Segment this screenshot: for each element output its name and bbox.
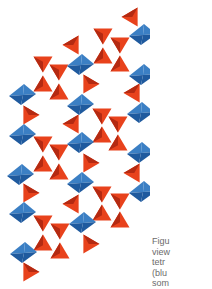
octahedron-facet — [9, 213, 23, 223]
octahedron-facet — [83, 212, 96, 223]
tetrahedron-icon — [124, 84, 140, 103]
octahedron-facet — [67, 143, 81, 153]
octahedron-facet — [141, 142, 150, 153]
tetrahedron-icon — [83, 235, 99, 254]
tetrahedron-icon — [109, 116, 128, 132]
octahedron-facet — [21, 164, 34, 175]
tetrahedron-icon — [51, 242, 70, 258]
tetrahedron-icon — [63, 36, 79, 55]
octahedron-icon — [67, 54, 94, 75]
octahedron-facet — [10, 253, 24, 263]
tetrahedron-icon — [23, 106, 39, 125]
octahedron-facet — [67, 54, 82, 66]
octahedron-facet — [69, 212, 84, 224]
octahedron-facet — [141, 102, 150, 113]
tetrahedron-icon — [34, 215, 53, 231]
octahedron-facet — [9, 202, 24, 214]
octahedron-facet — [7, 164, 22, 176]
tetrahedron-icon — [83, 154, 99, 173]
octahedron-facet — [81, 172, 94, 183]
octahedron-icon — [129, 24, 150, 45]
octahedron-facet — [9, 95, 23, 105]
octahedron-facet — [67, 65, 81, 75]
octahedron-facet — [129, 75, 143, 85]
octahedron-facet — [22, 252, 37, 263]
octahedron-icon — [129, 181, 150, 202]
octahedron-facet — [143, 181, 150, 192]
octahedron-facet — [23, 84, 36, 95]
octahedron-facet — [143, 24, 150, 35]
octahedron-icon — [69, 212, 96, 233]
octahedron-icon — [129, 64, 150, 85]
octahedron-facet — [127, 142, 142, 154]
tetrahedron-icon — [93, 204, 112, 220]
tetrahedron-icon — [83, 75, 99, 94]
octahedron-facet — [21, 94, 36, 105]
octahedron-facet — [79, 64, 94, 75]
tetrahedron-icon — [34, 234, 53, 250]
tetrahedron-icon — [111, 211, 130, 227]
tetrahedron-icon — [93, 186, 112, 202]
tetrahedron-icon — [111, 55, 130, 71]
tetrahedron-icon — [93, 126, 112, 142]
tetrahedron-icon — [34, 75, 53, 91]
octahedron-icon — [67, 172, 94, 193]
caption-line: Figu — [152, 236, 212, 247]
tetrahedron-icon — [94, 28, 113, 44]
octahedron-facet — [129, 64, 144, 76]
tetrahedron-icon — [124, 164, 140, 183]
octahedron-facet — [81, 94, 94, 105]
octahedron-facet — [81, 222, 96, 233]
tetrahedron-icon — [51, 223, 70, 239]
tetrahedron-icon — [23, 184, 39, 203]
octahedron-icon — [9, 84, 36, 105]
octahedron-icon — [127, 102, 150, 123]
octahedron-facet — [67, 132, 82, 144]
octahedron-facet — [67, 172, 82, 184]
octahedron-facet — [143, 64, 150, 75]
octahedron-facet — [7, 175, 21, 185]
octahedron-facet — [21, 134, 36, 145]
tetrahedron-icon — [34, 155, 53, 171]
tetrahedron-icon — [122, 8, 138, 27]
octahedron-facet — [79, 104, 94, 115]
tetrahedron-icon — [50, 144, 69, 160]
octahedron-facet — [129, 192, 143, 202]
octahedron-icon — [7, 164, 34, 185]
tetrahedron-icon — [94, 47, 113, 63]
octahedron-facet — [81, 132, 94, 143]
octahedron-icon — [10, 242, 37, 263]
octahedron-facet — [67, 105, 81, 115]
octahedron-facet — [19, 174, 34, 185]
octahedron-facet — [81, 54, 94, 65]
tetrahedron-icon — [50, 64, 69, 80]
octahedron-facet — [23, 202, 36, 213]
caption-line: som — [152, 278, 212, 289]
octahedron-facet — [21, 212, 36, 223]
caption-line: view — [152, 247, 212, 258]
octahedron-facet — [129, 35, 143, 45]
tetrahedron-icon — [111, 193, 130, 209]
octahedron-icon — [127, 142, 150, 163]
octahedron-facet — [127, 153, 141, 163]
octahedron-facet — [79, 182, 94, 193]
octahedron-icon — [67, 132, 94, 153]
tetrahedron-icon — [63, 115, 79, 134]
octahedron-facet — [67, 94, 82, 106]
octahedron-icon — [9, 202, 36, 223]
tetrahedron-icon — [23, 263, 39, 282]
caption-line: (blu — [152, 268, 212, 279]
octahedron-facet — [9, 124, 24, 136]
octahedron-facet — [67, 183, 81, 193]
polyhedral-structure-figure — [0, 0, 150, 285]
octahedron-facet — [129, 181, 144, 193]
octahedron-facet — [127, 102, 142, 114]
octahedron-facet — [10, 242, 25, 254]
octahedron-icon — [9, 124, 36, 145]
figure-caption: Figu view tetr (blu som — [152, 236, 212, 289]
octahedron-facet — [69, 223, 83, 233]
octahedron-facet — [9, 135, 23, 145]
octahedron-facet — [79, 142, 94, 153]
octahedron-icon — [67, 94, 94, 115]
octahedron-facet — [127, 113, 141, 123]
